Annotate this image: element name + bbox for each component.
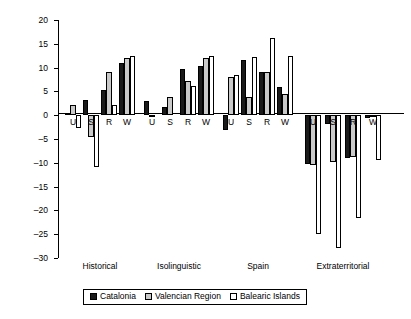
y-axis-tick <box>54 115 58 116</box>
bar-isolinguistic-w-valencian-region <box>203 58 208 116</box>
category-label-u: U <box>63 118 83 127</box>
y-axis-tick-label: –20 <box>0 206 48 215</box>
bar-chart: Percentage change Catalonia Valencian Re… <box>0 0 411 319</box>
y-axis-tick-label: 20 <box>0 16 48 25</box>
bar-historical-r-valencian-region <box>106 72 111 115</box>
bar-spain-s-valencian-region <box>246 97 251 115</box>
bar-spain-w-balearic-islands <box>288 56 293 115</box>
y-axis-tick <box>54 187 58 188</box>
y-axis-tick <box>54 234 58 235</box>
category-label-w: W <box>117 118 137 127</box>
y-axis-tick <box>54 20 58 21</box>
bar-isolinguistic-r-catalonia <box>180 69 185 115</box>
bar-isolinguistic-u-catalonia <box>144 101 149 115</box>
bar-isolinguistic-w-balearic-islands <box>209 56 214 115</box>
category-label-w: W <box>196 118 216 127</box>
bar-historical-s-catalonia <box>83 100 88 115</box>
legend-item-catalonia: Catalonia <box>90 292 136 301</box>
bar-spain-r-catalonia <box>259 72 264 115</box>
y-axis-tick-label: 15 <box>0 40 48 49</box>
bar-isolinguistic-r-balearic-islands <box>191 86 196 115</box>
bar-isolinguistic-w-catalonia <box>198 66 203 115</box>
y-axis-tick <box>54 258 58 259</box>
bar-isolinguistic-s-valencian-region <box>167 97 172 116</box>
legend-swatch-catalonia <box>90 293 97 300</box>
category-label-s: S <box>160 118 180 127</box>
category-label-r: R <box>99 118 119 127</box>
bar-extraterritorial-r-balearic-islands <box>356 115 361 218</box>
bar-isolinguistic-s-catalonia <box>162 107 167 116</box>
y-axis-tick-label: –25 <box>0 230 48 239</box>
legend-label-valencian-region: Valencian Region <box>155 292 221 301</box>
bar-spain-u-balearic-islands <box>234 75 239 115</box>
y-axis-tick <box>54 68 58 69</box>
bar-spain-s-catalonia <box>241 60 246 116</box>
bar-spain-w-catalonia <box>277 87 282 115</box>
y-axis-tick <box>54 91 58 92</box>
category-label-s: S <box>239 118 259 127</box>
y-axis-tick-label: –5 <box>0 135 48 144</box>
y-axis-tick-label: –30 <box>0 254 48 263</box>
y-axis-tick-label: 10 <box>0 63 48 72</box>
legend-label-balearic-islands: Balearic Islands <box>240 292 300 301</box>
bar-historical-r-catalonia <box>101 90 106 115</box>
category-label-u: U <box>142 118 162 127</box>
category-label-r: R <box>178 118 198 127</box>
bar-historical-u-valencian-region <box>70 105 75 115</box>
legend-item-balearic-islands: Balearic Islands <box>230 292 300 301</box>
group-label-extraterritorial: Extraterritorial <box>291 262 395 271</box>
category-label-r: R <box>343 118 363 127</box>
category-label-u: U <box>221 118 241 127</box>
bar-spain-r-valencian-region <box>264 72 269 115</box>
y-axis-tick-label: –10 <box>0 159 48 168</box>
legend-swatch-valencian-region <box>145 293 152 300</box>
category-label-r: R <box>257 118 277 127</box>
y-axis-tick <box>54 163 58 164</box>
bar-historical-w-valencian-region <box>124 58 129 116</box>
bar-historical-w-balearic-islands <box>130 56 135 116</box>
bar-extraterritorial-s-balearic-islands <box>336 115 341 248</box>
category-label-s: S <box>81 118 101 127</box>
legend-swatch-balearic-islands <box>230 293 237 300</box>
category-label-s: S <box>323 118 343 127</box>
bar-spain-r-balearic-islands <box>270 38 275 116</box>
category-label-w: W <box>363 118 383 127</box>
bar-historical-r-balearic-islands <box>112 105 117 115</box>
bar-spain-s-balearic-islands <box>252 57 257 115</box>
y-axis-tick <box>54 139 58 140</box>
category-label-w: W <box>275 118 295 127</box>
bar-historical-u-catalonia <box>65 113 70 115</box>
bar-historical-w-catalonia <box>119 63 124 115</box>
y-axis-tick-label: 5 <box>0 87 48 96</box>
y-axis-tick <box>54 44 58 45</box>
legend-label-catalonia: Catalonia <box>100 292 136 301</box>
bar-spain-w-valencian-region <box>282 94 287 115</box>
chart-legend: Catalonia Valencian Region Balearic Isla… <box>83 289 307 305</box>
bar-spain-u-valencian-region <box>228 77 233 115</box>
y-axis-tick-label: –15 <box>0 182 48 191</box>
bar-extraterritorial-u-balearic-islands <box>316 115 321 234</box>
bar-isolinguistic-r-valencian-region <box>185 81 190 115</box>
y-axis-tick <box>54 210 58 211</box>
category-label-u: U <box>303 118 323 127</box>
legend-item-valencian-region: Valencian Region <box>145 292 221 301</box>
y-axis-tick-label: 0 <box>0 111 48 120</box>
